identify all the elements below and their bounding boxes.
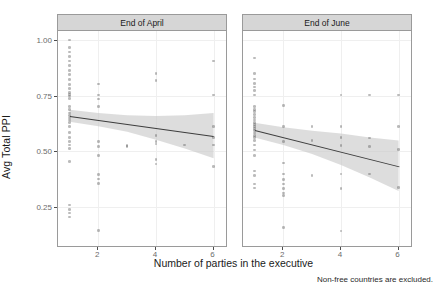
data-point (68, 87, 71, 90)
data-point (68, 73, 71, 76)
data-point (68, 125, 71, 128)
data-point (68, 97, 71, 100)
data-point (97, 83, 100, 86)
data-point (97, 105, 100, 108)
data-point (397, 148, 400, 151)
x-tick-mark (97, 247, 98, 250)
facet-strip-right: End of June (242, 14, 412, 31)
data-point (97, 182, 100, 185)
x-tick-mark (398, 247, 399, 250)
confidence-ribbon (58, 31, 227, 247)
data-point (282, 125, 285, 128)
data-point (282, 194, 285, 197)
data-point (68, 136, 71, 139)
data-point (253, 174, 256, 177)
chart-root: { "chart_data": { "type": "scatter", "ti… (0, 0, 439, 294)
x-tick-mark (213, 247, 214, 250)
data-point (68, 64, 71, 67)
data-point (68, 69, 71, 72)
data-point (68, 140, 71, 143)
data-point (97, 98, 100, 101)
data-point (282, 140, 285, 143)
data-point (282, 226, 285, 229)
data-point (282, 187, 285, 190)
data-point (155, 79, 158, 82)
data-point (97, 145, 100, 148)
facet-strip-label-right: End of June (304, 18, 349, 28)
plot-area-right (242, 31, 412, 247)
data-point (368, 145, 371, 148)
x-tick-mark (340, 247, 341, 250)
data-point (97, 173, 100, 176)
facet-strip-label-left: End of April (120, 18, 163, 28)
x-axis-title: Number of parties in the executive (57, 257, 410, 269)
facet-strip-left: End of April (57, 14, 227, 31)
y-tick-label: 0.25 (2, 202, 52, 211)
data-point (397, 186, 400, 189)
data-point (97, 154, 100, 157)
data-point (97, 140, 100, 143)
data-point (253, 170, 256, 173)
data-point (68, 39, 71, 42)
plot-area-left (57, 31, 227, 247)
y-tick-label: 1.00 (2, 35, 52, 44)
x-tick-mark (155, 247, 156, 250)
data-point (68, 108, 71, 111)
data-point (253, 139, 256, 142)
data-point (68, 83, 71, 86)
data-point (282, 162, 285, 165)
data-point (68, 160, 71, 163)
data-point (68, 46, 71, 49)
confidence-ribbon (243, 31, 412, 247)
data-point (68, 208, 71, 211)
data-point (282, 178, 285, 181)
data-point (68, 131, 71, 134)
facet-panel-end-of-april: End of April (57, 14, 227, 247)
data-point (68, 216, 71, 219)
y-tick-label: 0.75 (2, 91, 52, 100)
data-point (68, 78, 71, 81)
data-point (212, 125, 215, 128)
data-point (253, 72, 256, 75)
facet-panel-end-of-june: End of June (242, 14, 412, 247)
data-point (97, 229, 100, 232)
data-point (282, 104, 285, 107)
data-point (282, 173, 285, 176)
data-point (212, 165, 215, 168)
data-point (253, 78, 256, 81)
data-point (68, 55, 71, 58)
y-tick-label: 0.50 (2, 147, 52, 156)
x-tick-mark (282, 247, 283, 250)
data-point (253, 154, 256, 157)
data-point (155, 134, 158, 137)
data-point (253, 89, 256, 92)
chart-caption: Non-free countries are excluded. (317, 275, 433, 284)
data-point (340, 136, 343, 139)
data-point (68, 121, 71, 124)
data-point (340, 125, 343, 128)
data-point (397, 125, 400, 128)
data-point (253, 82, 256, 85)
data-point (68, 147, 71, 150)
